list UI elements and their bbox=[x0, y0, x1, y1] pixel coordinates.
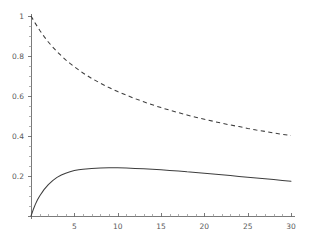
x-tick-label: 15 bbox=[156, 222, 166, 231]
y-tick-label: 0.4 bbox=[12, 132, 24, 141]
y-tick-label: 0.6 bbox=[12, 92, 24, 101]
y-tick-label: 0.8 bbox=[12, 52, 24, 61]
x-tick-label: 30 bbox=[286, 222, 296, 231]
y-axis-ticks bbox=[28, 17, 32, 207]
y-tick-label: 0.2 bbox=[12, 172, 24, 181]
dashed-decay-curve bbox=[31, 16, 291, 136]
solid-rise-peak-decay-curve bbox=[31, 168, 291, 216]
y-axis-tick-labels: 0.20.40.60.81 bbox=[12, 12, 24, 181]
chart-container: 51015202530 0.20.40.60.81 bbox=[0, 0, 310, 240]
x-axis-ticks bbox=[40, 213, 291, 217]
x-tick-label: 5 bbox=[72, 222, 77, 231]
x-tick-label: 10 bbox=[113, 222, 123, 231]
axes-group bbox=[28, 14, 295, 219]
x-tick-label: 20 bbox=[200, 222, 210, 231]
x-tick-label: 25 bbox=[243, 222, 253, 231]
data-curves-group bbox=[31, 16, 291, 216]
y-tick-label: 1 bbox=[19, 12, 24, 21]
x-axis-tick-labels: 51015202530 bbox=[72, 222, 296, 231]
line-chart-svg: 51015202530 0.20.40.60.81 bbox=[0, 0, 310, 240]
